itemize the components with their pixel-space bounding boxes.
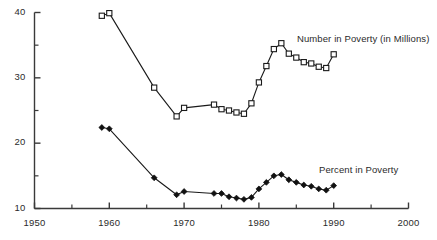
x-tick-label: 1950 (10, 217, 60, 228)
y-tick-label: 40 (0, 6, 26, 17)
marker-percent-in-poverty (181, 189, 187, 195)
marker-percent-in-poverty (316, 186, 322, 192)
y-tick-label: 20 (0, 136, 26, 147)
marker-number-in-poverty (107, 11, 112, 16)
marker-percent-in-poverty (308, 183, 314, 189)
x-tick-label: 1980 (234, 217, 284, 228)
marker-number-in-poverty (99, 13, 104, 18)
marker-number-in-poverty (301, 60, 306, 65)
marker-number-in-poverty (271, 46, 276, 51)
marker-percent-in-poverty (331, 183, 337, 189)
marker-percent-in-poverty (219, 191, 225, 197)
marker-percent-in-poverty (226, 194, 232, 200)
marker-number-in-poverty (249, 101, 254, 106)
line-number-in-poverty (102, 13, 334, 116)
marker-number-in-poverty (324, 65, 329, 70)
marker-number-in-poverty (241, 111, 246, 116)
marker-number-in-poverty (174, 114, 179, 119)
x-tick-label: 1970 (159, 217, 209, 228)
marker-percent-in-poverty (323, 187, 329, 193)
marker-number-in-poverty (279, 41, 284, 46)
x-tick-label: 2000 (384, 217, 434, 228)
x-tick-label: 1960 (84, 217, 134, 228)
marker-number-in-poverty (152, 85, 157, 90)
marker-number-in-poverty (182, 105, 187, 110)
series-label-number-in-poverty: Number in Poverty (in Millions) (297, 33, 429, 44)
marker-percent-in-poverty (301, 182, 307, 188)
marker-number-in-poverty (286, 51, 291, 56)
marker-number-in-poverty (316, 64, 321, 69)
marker-number-in-poverty (219, 107, 224, 112)
series-label-percent-in-poverty: Percent in Poverty (319, 164, 398, 175)
marker-number-in-poverty (331, 52, 336, 57)
line-percent-in-poverty (102, 127, 334, 199)
x-tick-label: 1990 (309, 217, 359, 228)
marker-number-in-poverty (226, 108, 231, 113)
marker-percent-in-poverty (241, 196, 247, 202)
poverty-chart: 10203040195019601970198019902000 Number … (0, 0, 437, 240)
marker-percent-in-poverty (211, 191, 217, 197)
marker-percent-in-poverty (293, 179, 299, 185)
y-tick-label: 30 (0, 71, 26, 82)
marker-number-in-poverty (211, 102, 216, 107)
marker-percent-in-poverty (234, 195, 240, 201)
marker-number-in-poverty (234, 110, 239, 115)
marker-number-in-poverty (309, 61, 314, 66)
marker-number-in-poverty (294, 55, 299, 60)
marker-number-in-poverty (256, 80, 261, 85)
y-tick-label: 10 (0, 202, 26, 213)
marker-percent-in-poverty (99, 125, 105, 131)
marker-number-in-poverty (264, 63, 269, 68)
